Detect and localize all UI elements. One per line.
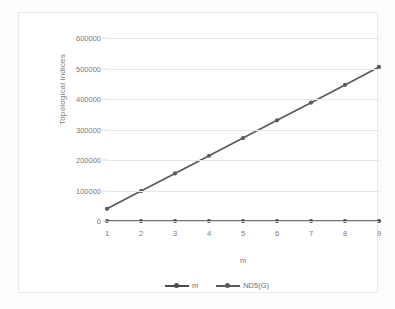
data-point-marker [275, 118, 279, 122]
chart-legend: mND5(G) [37, 281, 395, 290]
x-axis-tick-label: 9 [367, 229, 391, 238]
gridline-y-400000 [107, 99, 379, 100]
y-axis-tick-mark [102, 221, 107, 222]
legend-marker-icon [216, 282, 240, 290]
gridline-y-600000 [107, 38, 379, 39]
x-axis-tick-label: 6 [265, 229, 289, 238]
y-axis-tick-mark [102, 160, 107, 161]
y-axis-tick-label: 400000 [41, 95, 101, 104]
y-axis-tick-mark [102, 190, 107, 191]
legend-item-0[interactable]: m [165, 281, 198, 290]
legend-marker-icon [165, 282, 189, 290]
y-axis-tick-mark [102, 68, 107, 69]
gridline-y-300000 [107, 130, 379, 131]
legend-item-1[interactable]: ND5(G) [216, 281, 269, 290]
y-axis-tick-label: 200000 [41, 156, 101, 165]
y-axis-tick-label: 500000 [41, 64, 101, 73]
x-axis-tick-label: 2 [129, 229, 153, 238]
y-axis-tick-mark [102, 38, 107, 39]
data-point-marker [105, 207, 109, 211]
data-point-marker [343, 83, 347, 87]
gridline-y-100000 [107, 191, 379, 192]
gridline-y-0 [107, 221, 379, 222]
x-axis-tick-label: 7 [299, 229, 323, 238]
chart-frame: Topological indices m mND5(G) 0100000200… [18, 12, 378, 293]
y-axis-tick-label: 300000 [41, 125, 101, 134]
y-axis-tick-mark [102, 99, 107, 100]
x-axis-tick-label: 8 [333, 229, 357, 238]
x-axis-tick-label: 4 [197, 229, 221, 238]
plot-area [107, 38, 379, 221]
data-point-marker [173, 171, 177, 175]
legend-label: ND5(G) [243, 281, 269, 290]
x-axis-title: m [107, 256, 379, 265]
y-axis-tick-label: 600000 [41, 34, 101, 43]
chart-root: Topological indices m mND5(G) 0100000200… [0, 0, 395, 309]
y-axis-tick-label: 100000 [41, 186, 101, 195]
y-axis-tick-label: 0 [41, 217, 101, 226]
legend-label: m [192, 281, 198, 290]
gridline-y-500000 [107, 69, 379, 70]
x-axis-tick-label: 1 [95, 229, 119, 238]
y-axis-tick-mark [102, 129, 107, 130]
gridline-y-200000 [107, 160, 379, 161]
data-point-marker [207, 154, 211, 158]
data-point-marker [309, 101, 313, 105]
x-axis-tick-label: 3 [163, 229, 187, 238]
x-axis-tick-label: 5 [231, 229, 255, 238]
data-point-marker [241, 136, 245, 140]
